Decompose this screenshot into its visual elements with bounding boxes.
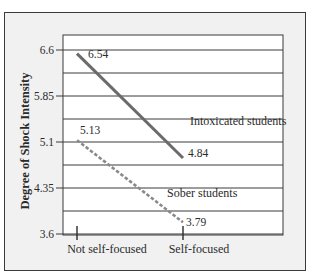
x-category-label: Self-focused (169, 242, 230, 256)
data-value-label: 4.84 (188, 147, 208, 159)
y-tick-labels: 6.65.855.14.353.6 (34, 44, 63, 240)
y-tick-label: 6.6 (40, 44, 55, 56)
y-tick-label: 4.35 (34, 182, 54, 194)
y-tick-label: 5.85 (34, 90, 54, 102)
data-value-label: 6.54 (88, 48, 108, 60)
line-chart: 6.65.855.14.353.6 Not self-focusedSelf-f… (0, 0, 313, 278)
data-value-label: 5.13 (80, 124, 100, 136)
x-category-label: Not self-focused (67, 242, 147, 256)
y-tick-label: 3.6 (40, 228, 55, 240)
data-value-label: 3.79 (186, 216, 206, 228)
series-label: Sober students (167, 186, 238, 200)
series-label: Intoxicated students (190, 114, 287, 128)
y-tick-label: 5.1 (40, 136, 55, 148)
